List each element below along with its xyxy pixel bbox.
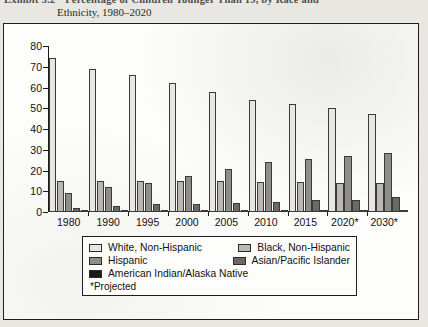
bar-group-2005 (209, 46, 249, 212)
exhibit-number: Exhibit 5.2 (4, 0, 55, 5)
bar (297, 182, 304, 212)
bar-group-2010 (249, 46, 289, 212)
bar (89, 69, 96, 212)
bar (352, 200, 359, 212)
bar-group-1995 (129, 46, 169, 212)
x-axis-tick-labels: 19801990199520002005201020152020*2030* (49, 216, 404, 232)
bar (169, 83, 176, 212)
bar (57, 181, 64, 212)
legend-row: White, Non-Hispanic Black, Non-Hispanic (89, 241, 350, 254)
y-axis-tick-20: 20 (30, 165, 42, 177)
legend-label: Asian/Pacific Islander (252, 255, 350, 266)
legend-item-hispanic: Hispanic (89, 255, 233, 266)
legend-item-black-non-hispanic: Black, Non-Hispanic (238, 242, 350, 253)
bar-group-2030-projected (368, 46, 407, 212)
legend-label: Hispanic (108, 255, 148, 266)
plot-area: 01020304050607080 (20, 46, 404, 212)
bar (376, 183, 383, 212)
y-axis-tick-60: 60 (30, 82, 42, 94)
y-axis-tick-70: 70 (30, 61, 42, 73)
bar (328, 108, 335, 212)
x-axis-tick-2000: 2000 (167, 216, 206, 232)
exhibit-caption: Exhibit 5.2Percentage of Children Younge… (0, 0, 428, 24)
bar (177, 181, 184, 212)
legend-item-asian-pacific-islander: Asian/Pacific Islander (233, 255, 350, 266)
bar (305, 159, 312, 212)
x-axis-tick-2005: 2005 (207, 216, 246, 232)
bar (400, 210, 407, 212)
x-axis-tick-2015: 2015 (286, 216, 325, 232)
legend-swatch-icon (233, 257, 246, 265)
legend-swatch-icon (89, 270, 102, 278)
bar-group-2000 (169, 46, 209, 212)
bar (273, 202, 280, 212)
bar (65, 193, 72, 212)
bar (344, 156, 351, 212)
bar (368, 114, 375, 212)
chart-legend: White, Non-Hispanic Black, Non-Hispanic … (82, 236, 357, 296)
legend-footnote: *Projected (90, 281, 350, 292)
bar (233, 203, 240, 212)
bar (193, 204, 200, 212)
caption-title-first-line: Percentage of Children Younger Than 19, … (65, 0, 319, 5)
bar (384, 153, 391, 212)
bar (209, 92, 216, 212)
bar-group-2020-projected (328, 46, 368, 212)
x-axis-tick-1980: 1980 (49, 216, 88, 232)
bar (217, 181, 224, 212)
legend-label: White, Non-Hispanic (108, 242, 202, 253)
bar (257, 182, 264, 212)
y-axis-tick-80: 80 (30, 40, 42, 52)
x-axis-tick-2030-projected: 2030* (365, 216, 404, 232)
y-axis-tick-40: 40 (30, 123, 42, 135)
y-axis-tick-50: 50 (30, 102, 42, 114)
bar (336, 183, 343, 212)
bar (225, 169, 232, 212)
legend-swatch-icon (238, 244, 251, 252)
y-axis-tick-labels: 01020304050607080 (20, 46, 42, 212)
bar (97, 181, 104, 212)
bar (392, 197, 399, 212)
bar (249, 100, 256, 212)
bar (105, 187, 112, 212)
bar (145, 183, 152, 212)
bar (185, 176, 192, 212)
caption-line-1: Exhibit 5.2Percentage of Children Younge… (4, 0, 319, 5)
x-axis-tick-1995: 1995 (128, 216, 167, 232)
bar (289, 104, 296, 212)
bar-group-1980 (49, 46, 89, 212)
legend-row: Hispanic Asian/Pacific Islander (89, 254, 350, 267)
bar (113, 206, 120, 212)
legend-label: Black, Non-Hispanic (257, 242, 350, 253)
bar (137, 181, 144, 212)
bar (73, 208, 80, 212)
legend-swatch-icon (89, 244, 102, 252)
legend-label: American Indian/Alaska Native (108, 268, 248, 279)
y-axis-tick-30: 30 (30, 144, 42, 156)
figure-frame: 01020304050607080 1980199019952000200520… (3, 23, 419, 320)
bar-groups (49, 46, 404, 212)
bar (312, 200, 319, 212)
bar (49, 58, 56, 212)
legend-item-white-non-hispanic: White, Non-Hispanic (89, 242, 238, 253)
caption-line-2: Ethnicity, 1980–2020 (57, 6, 152, 18)
bar-group-2015 (289, 46, 329, 212)
bar (153, 204, 160, 212)
x-axis-tick-1990: 1990 (88, 216, 127, 232)
legend-item-american-indian-alaska-native: American Indian/Alaska Native (89, 268, 248, 279)
x-axis-tick-2010: 2010 (246, 216, 285, 232)
legend-swatch-icon (89, 257, 102, 265)
y-axis-tick-10: 10 (30, 185, 42, 197)
bar-group-1990 (89, 46, 129, 212)
legend-row: American Indian/Alaska Native (89, 267, 350, 280)
bar (265, 162, 272, 212)
y-axis-tick-0: 0 (36, 206, 42, 218)
x-axis-tick-2020-projected: 2020* (325, 216, 364, 232)
bar (129, 75, 136, 212)
